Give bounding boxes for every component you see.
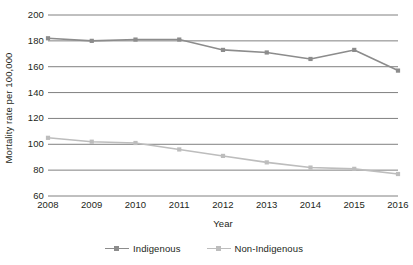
data-point — [352, 48, 356, 52]
data-point — [177, 147, 181, 151]
series-indigenous — [46, 36, 400, 73]
series-line — [48, 38, 398, 70]
legend-item-indigenous[interactable]: Indigenous — [105, 243, 180, 254]
x-axis-tick-label: 2009 — [72, 199, 112, 211]
legend-marker-icon — [207, 244, 231, 254]
data-point — [396, 68, 400, 72]
data-point — [90, 140, 94, 144]
x-axis-tick-label: 2016 — [378, 199, 413, 211]
data-point — [265, 50, 269, 54]
x-axis-tick-label: 2015 — [334, 199, 374, 211]
data-point — [177, 37, 181, 41]
data-point — [221, 154, 225, 158]
x-axis-tick-label: 2010 — [116, 199, 156, 211]
data-point — [90, 39, 94, 43]
x-axis-tick-label: 2011 — [159, 199, 199, 211]
x-axis-tick-label: 2013 — [247, 199, 287, 211]
x-axis-tick-labels: 200820092010201120122013201420152016 — [48, 199, 398, 213]
chart-legend: IndigenousNon-Indigenous — [0, 243, 408, 254]
x-axis-tick-label: 2008 — [28, 199, 68, 211]
data-point — [308, 165, 312, 169]
data-point — [133, 141, 137, 145]
data-point — [308, 57, 312, 61]
legend-item-label: Non-Indigenous — [235, 243, 303, 254]
data-point — [46, 136, 50, 140]
x-axis-title: Year — [48, 218, 398, 229]
x-axis-tick-label: 2014 — [291, 199, 331, 211]
legend-item-non-indigenous[interactable]: Non-Indigenous — [207, 243, 303, 254]
data-point — [221, 48, 225, 52]
data-point — [265, 160, 269, 164]
data-point — [396, 172, 400, 176]
data-point — [133, 37, 137, 41]
legend-marker-icon — [105, 244, 129, 254]
data-point — [46, 36, 50, 40]
data-point — [352, 167, 356, 171]
x-axis-tick-label: 2012 — [203, 199, 243, 211]
legend-item-label: Indigenous — [133, 243, 180, 254]
